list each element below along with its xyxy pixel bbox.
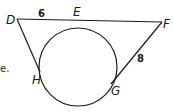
point-label-g: G xyxy=(111,84,120,98)
segment-dh xyxy=(17,19,40,72)
point-label-e: E xyxy=(73,5,81,19)
point-label-h: H xyxy=(32,73,41,87)
clipped-text-fragment: e. xyxy=(0,63,9,74)
segment-label-fg: 8 xyxy=(137,53,144,64)
segment-df xyxy=(17,19,162,22)
segment-label-de: 6 xyxy=(38,8,45,19)
point-label-f: F xyxy=(163,17,171,31)
point-label-d: D xyxy=(6,13,15,27)
tangent-circle-diagram: D E F H G 6 8 e. xyxy=(0,0,173,112)
circle xyxy=(39,28,117,106)
